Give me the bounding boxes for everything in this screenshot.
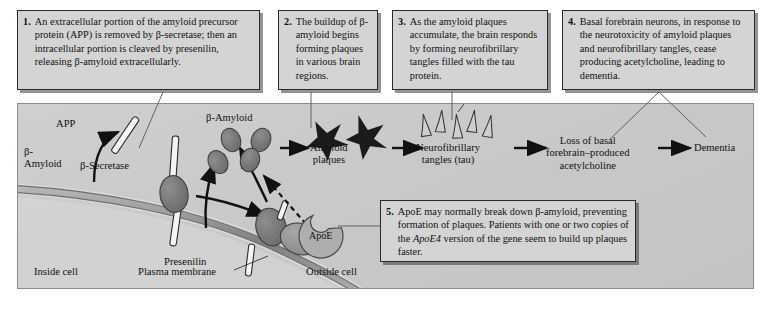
- callout-text: Basal forebrain neurons, in response to …: [580, 15, 748, 82]
- callout-box-5: 5. ApoE may normally break down β-amyloi…: [380, 200, 636, 262]
- apoe4-gene-name: ApoE4: [413, 233, 441, 244]
- label-outside-cell: Outside cell: [306, 266, 357, 279]
- pathway-step-line1: Amyloid: [310, 142, 348, 153]
- label-beta-amyloid-membrane: β- Amyloid: [24, 146, 62, 170]
- label-beta-amyloid-line1: β-: [24, 146, 33, 157]
- pathway-step-line2: forebrain–produced: [546, 147, 630, 158]
- label-app: APP: [56, 118, 75, 131]
- label-apoe: ApoE: [309, 230, 332, 242]
- beta-amyloid-cluster-graphic: [204, 125, 274, 177]
- pathway-step-line2: tangles (tau): [422, 154, 475, 165]
- pathway-step-line2: plaques: [313, 154, 345, 165]
- label-inside-cell: Inside cell: [34, 266, 78, 279]
- cleaved-app-fragment: [111, 116, 140, 154]
- pathway-step-line1: Loss of basal: [560, 135, 616, 146]
- label-beta-amyloid-cluster: β-Amyloid: [206, 112, 253, 125]
- callout-box-4: 4. Basal forebrain neurons, in response …: [562, 10, 755, 90]
- beta-secretase-arrow: [94, 132, 118, 182]
- callout-text: As the amyloid plaques accumulate, the b…: [410, 15, 541, 82]
- callout-text: The buildup of β-amyloid begins forming …: [296, 15, 371, 82]
- callout-number: 4.: [568, 15, 576, 28]
- callout-number: 1.: [23, 15, 31, 28]
- label-plasma-membrane: Plasma membrane: [138, 266, 216, 279]
- neurofibrillary-tangles-graphic: [418, 104, 496, 138]
- pathway-step-line1: Neurofibrillary: [416, 142, 480, 153]
- callout-number: 3.: [398, 15, 406, 28]
- callout-number: 5.: [386, 205, 394, 218]
- callout-number: 2.: [284, 15, 292, 28]
- callout-box-3: 3. As the amyloid plaques accumulate, th…: [392, 10, 548, 90]
- callout-box-2: 2. The buildup of β-amyloid begins formi…: [278, 10, 378, 90]
- pathway-step-acetylcholine-loss: Loss of basal forebrain–produced acetylc…: [546, 135, 630, 172]
- label-beta-secretase: β-Secretase: [80, 160, 129, 173]
- callout-text: ApoE may normally break down β-amyloid, …: [398, 205, 629, 259]
- callout-box-1: 1. An extracellular portion of the amylo…: [17, 10, 260, 90]
- pathway-step-dementia: Dementia: [694, 142, 735, 155]
- callout-text: An extracellular portion of the amyloid …: [35, 15, 253, 69]
- pathway-step-line3: acetylcholine: [560, 160, 616, 171]
- pathway-step-amyloid-plaques: Amyloid plaques: [310, 142, 348, 167]
- pathway-step-neurofibrillary-tangles: Neurofibrillary tangles (tau): [416, 142, 480, 167]
- label-beta-amyloid-line2: Amyloid: [24, 158, 62, 169]
